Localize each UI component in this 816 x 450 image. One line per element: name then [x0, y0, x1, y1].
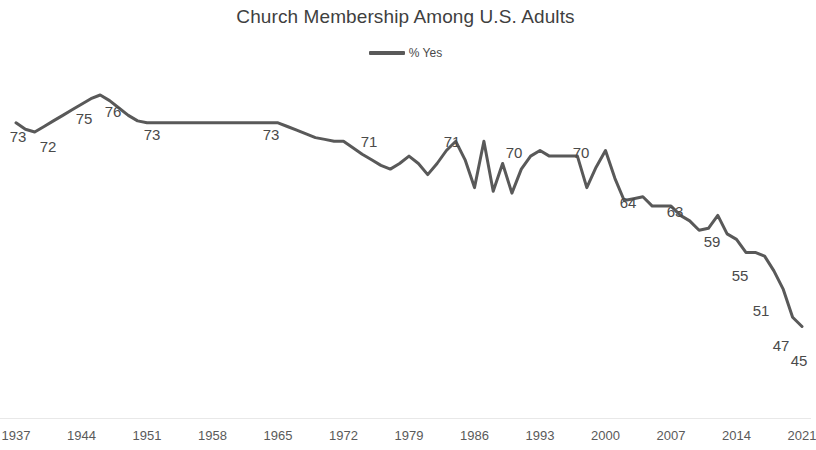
- data-point-label: 71: [361, 133, 378, 150]
- x-axis-tick-label: 1972: [329, 428, 358, 443]
- data-point-label: 64: [620, 194, 637, 211]
- x-axis-tick-label: 2021: [788, 428, 816, 443]
- x-axis-tick-label: 1979: [395, 428, 424, 443]
- x-axis-tick-label: 1958: [198, 428, 227, 443]
- x-axis-tick-label: 2014: [722, 428, 751, 443]
- data-point-label: 51: [753, 302, 770, 319]
- data-point-label: 70: [573, 144, 590, 161]
- data-point-label: 55: [732, 267, 749, 284]
- data-point-label: 47: [773, 337, 790, 354]
- data-point-label: 76: [105, 103, 122, 120]
- x-axis-tick-label: 1937: [2, 428, 31, 443]
- x-axis-tick-label: 1965: [264, 428, 293, 443]
- data-point-label: 72: [40, 138, 57, 155]
- series-line-percent-yes: [16, 95, 802, 327]
- data-point-label: 73: [10, 128, 27, 145]
- data-point-label: 59: [704, 233, 721, 250]
- x-axis-tick-label: 2000: [591, 428, 620, 443]
- x-axis-tick-label: 1993: [526, 428, 555, 443]
- data-point-label: 70: [506, 144, 523, 161]
- data-point-label: 75: [76, 110, 93, 127]
- x-axis-tick-label: 1944: [67, 428, 96, 443]
- x-axis-rule: [0, 418, 811, 419]
- x-axis-tick-label: 2007: [657, 428, 686, 443]
- data-point-label: 73: [263, 126, 280, 143]
- data-point-label: 63: [667, 203, 684, 220]
- x-axis-tick-label: 1951: [133, 428, 162, 443]
- data-point-label: 45: [791, 352, 808, 369]
- data-point-label: 73: [144, 126, 161, 143]
- x-axis-tick-label: 1986: [460, 428, 489, 443]
- data-point-label: 71: [444, 133, 461, 150]
